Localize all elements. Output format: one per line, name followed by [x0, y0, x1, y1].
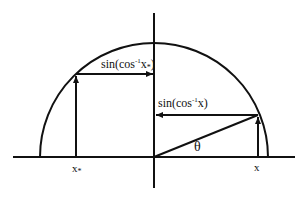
- semicircle-diagram: sin(cos-1x*) sin(cos-1x) θ x* x: [0, 0, 302, 206]
- radius-line: [154, 115, 258, 157]
- label-sin-cos-inv-x: sin(cos-1x): [158, 96, 208, 110]
- label-xstar: x*: [72, 162, 82, 176]
- label-sin-cos-inv-xstar: sin(cos-1x*): [101, 57, 155, 72]
- label-theta: θ: [194, 139, 201, 154]
- label-x: x: [254, 161, 260, 173]
